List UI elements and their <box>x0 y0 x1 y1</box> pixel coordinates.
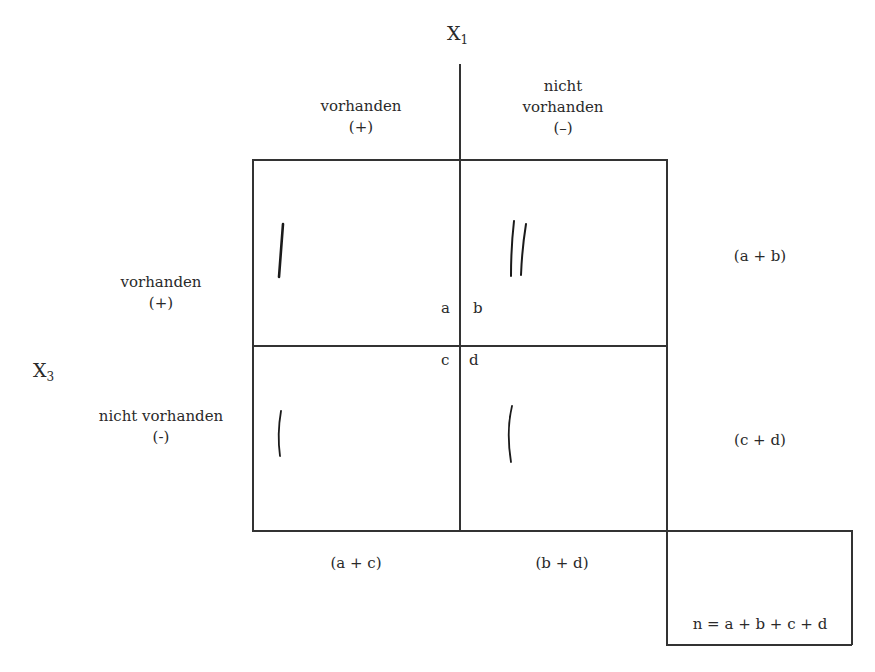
tally-mark-c <box>279 411 281 456</box>
tally-mark-b-1 <box>511 221 514 276</box>
row-total-present: (a + b) <box>700 246 820 267</box>
column-header-present: vorhanden (+) <box>286 96 436 138</box>
tally-mark-a <box>279 224 283 277</box>
column-header-sign: (+) <box>286 117 436 138</box>
tally-marks <box>252 159 666 531</box>
row-header-label: nicht vorhanden <box>76 406 246 427</box>
row-total-absent: (c + d) <box>700 430 820 451</box>
tally-mark-d <box>509 406 512 462</box>
total-box-right-border <box>851 530 853 645</box>
variable-x1-base: X <box>447 22 461 44</box>
row-header-label: vorhanden <box>86 272 236 293</box>
variable-x3-subscript: 3 <box>47 370 55 384</box>
column-header-label-line2: vorhanden <box>488 97 638 118</box>
column-header-sign: (–) <box>488 118 638 139</box>
total-box-bottom-border <box>666 644 852 646</box>
variable-x1-label: X1 <box>447 22 468 47</box>
grand-total: n = a + b + c + d <box>670 614 850 635</box>
variable-x3-label: X3 <box>33 359 54 384</box>
variable-x1-subscript: 1 <box>461 33 469 47</box>
variable-x3-base: X <box>33 359 47 381</box>
grid-right-border <box>666 159 668 645</box>
column-header-label: vorhanden <box>286 96 436 117</box>
row-header-sign: (+) <box>86 293 236 314</box>
row-header-present: vorhanden (+) <box>86 272 236 314</box>
column-total-present: (a + c) <box>296 553 416 574</box>
row-header-absent: nicht vorhanden (-) <box>76 406 246 448</box>
tally-mark-b-2 <box>521 224 526 275</box>
row-header-sign: (-) <box>76 427 246 448</box>
column-header-label-line1: nicht <box>488 76 638 97</box>
column-total-absent: (b + d) <box>502 553 622 574</box>
column-header-absent: nicht vorhanden (–) <box>488 76 638 139</box>
